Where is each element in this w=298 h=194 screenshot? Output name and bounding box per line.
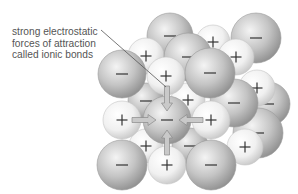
negative-ion-front-neg-3 xyxy=(97,140,147,190)
negative-ion-front-neg-4 xyxy=(186,140,236,190)
annotation-line-1: strong electrostatic xyxy=(12,26,112,38)
negative-ion-front-neg-2 xyxy=(185,48,235,98)
ion-spheres xyxy=(97,13,290,190)
ionic-bond-annotation: strong electrostatic forces of attractio… xyxy=(12,26,112,61)
annotation-line-3: called ionic bonds xyxy=(12,49,112,61)
annotation-line-2: forces of attraction xyxy=(12,38,112,50)
